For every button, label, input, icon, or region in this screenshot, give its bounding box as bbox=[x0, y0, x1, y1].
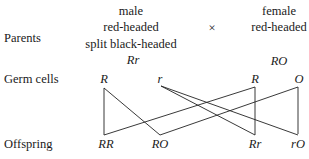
line-maler-Rr bbox=[161, 86, 255, 135]
offspring-rO: rO bbox=[291, 137, 305, 151]
inheritance-lines bbox=[0, 0, 309, 159]
offspring-Rr: Rr bbox=[249, 137, 262, 151]
offspring-RO: RO bbox=[152, 137, 169, 151]
offspring-RR: RR bbox=[98, 137, 113, 151]
line-maleR-RO bbox=[104, 88, 160, 135]
